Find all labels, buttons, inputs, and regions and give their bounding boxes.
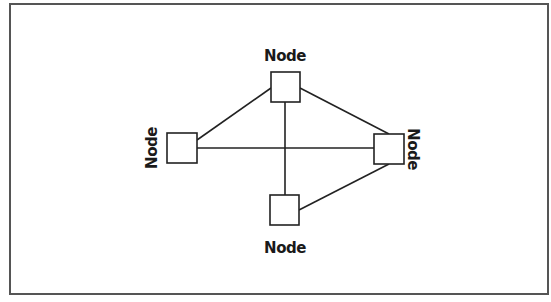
node-box-top: [271, 72, 300, 102]
node-label-left: Node: [143, 127, 161, 169]
node-box-right: [374, 134, 404, 164]
diagram-svg: NodeNodeNodeNode: [0, 0, 551, 302]
node-box-bottom: [270, 195, 299, 225]
edge-right-bottom: [299, 164, 389, 210]
node-label-top: Node: [264, 47, 306, 65]
edges-group: [197, 88, 389, 210]
network-diagram: NodeNodeNodeNode: [0, 0, 551, 302]
node-bottom: Node: [264, 195, 306, 257]
node-label-bottom: Node: [264, 239, 306, 257]
edge-top-right: [300, 88, 389, 134]
edge-top-left: [197, 88, 271, 140]
node-right: Node: [374, 128, 422, 170]
node-box-left: [167, 133, 197, 163]
node-label-right: Node: [404, 128, 422, 170]
node-top: Node: [264, 47, 306, 102]
nodes-group: NodeNodeNodeNode: [143, 47, 422, 257]
node-left: Node: [143, 127, 197, 169]
